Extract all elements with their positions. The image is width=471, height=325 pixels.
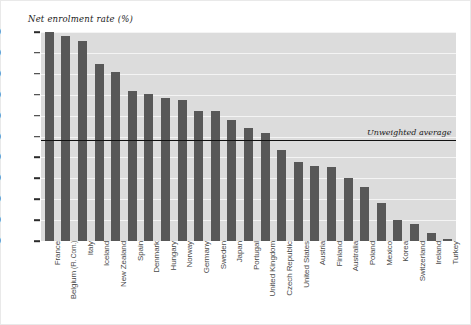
bar: [61, 36, 70, 241]
x-axis-tick-label: Hungary: [169, 241, 178, 271]
bar: [393, 220, 402, 241]
x-axis-tick-label: United States: [302, 241, 311, 288]
bar: [344, 178, 353, 241]
y-axis-tick-mark: [34, 31, 40, 33]
y-axis-tick-label: 60: [0, 111, 1, 121]
bar: [211, 111, 220, 241]
x-axis-tick-label: Australia: [351, 241, 360, 271]
x-axis-tick-label: Sweden: [219, 241, 228, 269]
chart-title: Net enrolment rate (%): [28, 14, 133, 24]
x-axis-tick-label: Poland: [368, 241, 377, 265]
x-axis-tick-label: Italy: [86, 241, 95, 255]
x-axis-tick-label: Belgium (Fl. Com.): [69, 241, 78, 299]
x-axis-tick-label: Japan: [235, 241, 244, 262]
x-axis-tick-label-main: Belgium: [69, 271, 78, 299]
unweighted-average-line: [41, 140, 456, 142]
x-axis-tick-label: France: [53, 241, 62, 265]
x-axis-tick-label: Korea: [401, 241, 410, 262]
x-axis-tick-label: Finland: [335, 241, 344, 267]
bar: [261, 133, 270, 241]
x-axis: FranceBelgium (Fl. Com.)ItalyIcelandNew …: [41, 241, 456, 325]
y-axis-tick-mark: [34, 198, 40, 200]
y-axis-tick-label: 70: [0, 90, 1, 100]
x-axis-tick-label-sub: (Fl. Com.): [70, 241, 77, 269]
y-axis-tick-mark: [34, 52, 40, 54]
y-axis-tick-label: 80: [0, 69, 1, 79]
x-axis-tick-label: Ireland: [434, 241, 443, 265]
chart-figure: Net enrolment rate (%) 10090807060504030…: [0, 0, 471, 325]
y-axis-tick-label: 30: [0, 173, 1, 183]
y-axis-tick-label: 50: [0, 132, 1, 142]
x-axis-tick-label: Germany: [202, 241, 211, 273]
bar: [227, 120, 236, 241]
y-axis-tick-label: 0: [0, 236, 1, 246]
x-axis-tick-label: Switzerland: [418, 241, 427, 281]
unweighted-average-label: Unweighted average: [367, 128, 451, 137]
y-axis-tick-mark: [34, 115, 40, 117]
y-axis-tick-mark: [34, 136, 40, 138]
y-axis-tick-mark: [34, 178, 40, 180]
y-axis-tick-mark: [34, 157, 40, 159]
bar: [194, 111, 203, 241]
x-axis-tick-label: Mexico: [385, 241, 394, 266]
x-axis-tick-label: Denmark: [152, 241, 161, 273]
bar: [377, 203, 386, 241]
bar: [144, 94, 153, 241]
y-axis-tick-label: 10: [0, 215, 1, 225]
y-axis-tick-mark: [34, 219, 40, 221]
x-axis-tick-label: Czech Republic: [285, 241, 294, 296]
y-axis-tick-label: 20: [0, 194, 1, 204]
bar: [95, 64, 104, 241]
bar: [161, 98, 170, 241]
x-axis-tick-label: New Zealand: [119, 241, 128, 287]
bar: [45, 32, 54, 241]
y-axis-tick-mark: [34, 94, 40, 96]
x-axis-tick-label: Austria: [318, 241, 327, 265]
bar: [294, 162, 303, 241]
bar: [244, 128, 253, 241]
y-axis-tick-label: 90: [0, 48, 1, 58]
bar: [178, 100, 187, 241]
bar: [111, 72, 120, 241]
bar: [427, 233, 436, 241]
y-axis: 1009080706050403020100: [1, 1, 41, 241]
bar: [327, 167, 336, 241]
y-axis-tick-mark: [34, 73, 40, 75]
y-axis-tick-mark: [34, 240, 40, 242]
x-axis-tick-label: United Kingdom: [268, 241, 277, 297]
bar: [277, 150, 286, 241]
x-axis-tick-label: Portugal: [252, 241, 261, 270]
bar: [128, 91, 137, 241]
x-axis-tick-label: Spain: [136, 241, 145, 261]
bar: [410, 224, 419, 241]
bar: [360, 187, 369, 241]
y-axis-tick-label: 100: [0, 27, 1, 37]
x-axis-tick-label: Iceland: [102, 241, 111, 266]
x-axis-tick-label: Norway: [185, 241, 194, 268]
y-axis-tick-label: 40: [0, 152, 1, 162]
x-axis-tick-label: Turkey: [451, 241, 460, 265]
bar: [310, 166, 319, 241]
